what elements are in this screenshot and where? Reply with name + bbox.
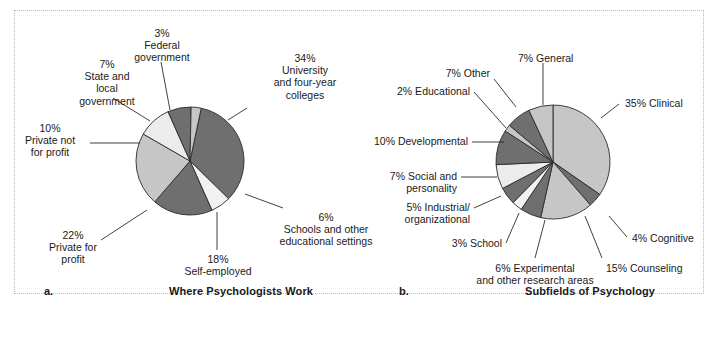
label-social-and-personality: 7% Social and personality bbox=[375, 170, 457, 194]
label-state-and-local-government: 7% State and local government bbox=[52, 58, 162, 107]
leader-counseling bbox=[585, 216, 602, 258]
label-private-not-for-profit: 10% Private not for profit bbox=[10, 122, 90, 159]
label-cognitive: 4% Cognitive bbox=[632, 232, 722, 244]
pie-chart-b bbox=[496, 105, 610, 219]
caption-where-psychologists-work: Where Psychologists Work bbox=[116, 285, 366, 297]
figure-pie-charts: 7% State and local government 3% Federal… bbox=[0, 0, 722, 342]
label-private-for-profit: 22% Private for profit bbox=[33, 229, 113, 266]
label-industrial-organizational: 5% Industrial/ organizational bbox=[385, 201, 470, 225]
leader-educational bbox=[474, 92, 506, 128]
panel-letter-b: b. bbox=[399, 285, 409, 297]
leader-other bbox=[494, 79, 516, 107]
leader-experimental bbox=[535, 220, 545, 258]
leader-clinical bbox=[601, 104, 619, 118]
panel-letter-a: a. bbox=[44, 285, 53, 297]
label-federal-government: 3% Federal government bbox=[118, 27, 206, 64]
leader-schools bbox=[245, 194, 283, 208]
label-developmental: 10% Developmental bbox=[358, 135, 468, 147]
label-schools-and-other-educational-settings: 6% Schools and other educational setting… bbox=[266, 211, 386, 248]
caption-subfields-of-psychology: Subfields of Psychology bbox=[465, 285, 715, 297]
pie-chart-a bbox=[136, 107, 244, 215]
leader-federal bbox=[161, 62, 170, 110]
label-university-and-four-year-colleges: 34% University and four-year colleges bbox=[250, 52, 360, 101]
leader-industrial bbox=[474, 196, 501, 208]
label-educational: 2% Educational bbox=[378, 85, 470, 97]
label-experimental-and-other-research-areas: 6% Experimental and other research areas bbox=[457, 262, 613, 286]
label-self-employed: 18% Self-employed bbox=[168, 253, 268, 277]
leader-school bbox=[506, 213, 519, 243]
label-general: 7% General bbox=[518, 52, 608, 64]
leader-cognitive bbox=[609, 216, 627, 237]
label-school: 3% School bbox=[428, 237, 502, 249]
label-other: 7% Other bbox=[418, 67, 490, 79]
label-clinical: 35% Clinical bbox=[625, 97, 715, 109]
label-counseling: 15% Counseling bbox=[606, 262, 706, 274]
leader-university bbox=[228, 108, 247, 120]
